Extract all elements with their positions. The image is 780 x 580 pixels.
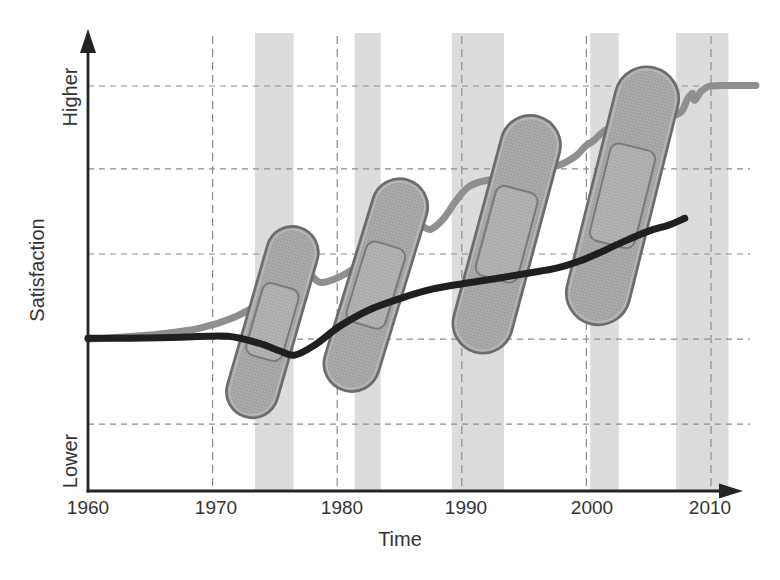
bandaid-icon [317, 172, 435, 399]
y-axis-title: Satisfaction [26, 218, 48, 321]
y-axis-lower-label: Lower [59, 433, 81, 488]
x-tick-1970: 1970 [195, 497, 237, 518]
x-tick-2010: 2010 [689, 497, 731, 518]
x-tick-1980: 1980 [321, 497, 363, 518]
x-tick-1990: 1990 [445, 497, 487, 518]
x-axis-title: Time [378, 528, 422, 550]
satisfaction-chart: Satisfaction Higher Lower Time 1960 1970… [0, 0, 780, 580]
y-axis-higher-label: Higher [59, 67, 81, 126]
figure-canvas: Satisfaction Higher Lower Time 1960 1970… [0, 0, 780, 580]
bandaid-icon [220, 220, 324, 424]
x-tick-1960: 1960 [67, 497, 109, 518]
bandaid-icon [560, 60, 686, 332]
x-tick-2000: 2000 [571, 497, 613, 518]
y-axis-arrow-icon [80, 29, 96, 53]
